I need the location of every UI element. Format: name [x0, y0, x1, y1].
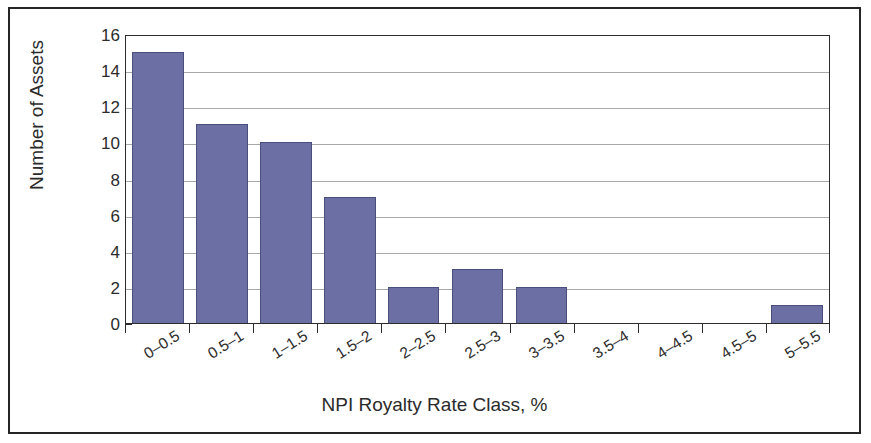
y-axis-tick-label: 0 [86, 316, 120, 333]
x-axis-tick-label: 2–2.5 [397, 327, 439, 363]
bar-slot [701, 36, 765, 323]
bar-slot [190, 36, 254, 323]
bar-slot [573, 36, 637, 323]
x-label-slot: 3.5–4 [574, 333, 638, 389]
y-axis-tick-label: 16 [86, 27, 120, 44]
x-label-slot: 3–3.5 [510, 333, 574, 389]
x-label-slot: 0.5–1 [189, 333, 253, 389]
y-axis-tick-label: 2 [86, 279, 120, 296]
x-axis-tick-label: 1–1.5 [269, 327, 311, 363]
x-axis-tick-label: 3–3.5 [525, 327, 567, 363]
y-axis-tick-label: 10 [86, 135, 120, 152]
bar [452, 269, 504, 323]
x-axis-tick-label: 5–5.5 [782, 327, 824, 363]
x-label-slot: 0–0.5 [125, 333, 189, 389]
y-axis-tick-label: 4 [86, 243, 120, 260]
x-axis-tick-mark [381, 324, 382, 333]
y-axis-tick-label: 8 [86, 171, 120, 188]
bar-slot [637, 36, 701, 323]
y-axis-title: Number of Assets [26, 5, 48, 225]
x-axis-tick-mark [766, 324, 767, 333]
bar-slot [509, 36, 573, 323]
x-axis-tick-mark [253, 324, 254, 333]
bar-slot [382, 36, 446, 323]
bar [260, 142, 312, 323]
x-axis-tick-mark [189, 324, 190, 333]
x-label-slot: 4.5–5 [702, 333, 766, 389]
x-axis-tick-labels: 0–0.50.5–11–1.51.5–22–2.52.5–33–3.53.5–4… [125, 333, 830, 389]
x-axis-tick-label: 4–4.5 [653, 327, 695, 363]
x-axis-tick-mark [317, 324, 318, 333]
bar-slot [254, 36, 318, 323]
y-axis-tick-label: 12 [86, 99, 120, 116]
x-axis-tick-label: 1.5–2 [333, 327, 375, 363]
x-axis-tick-mark [445, 324, 446, 333]
x-axis-tick-label: 2.5–3 [461, 327, 503, 363]
x-axis-tick-mark [702, 324, 703, 333]
y-axis-tick-label: 6 [86, 207, 120, 224]
x-axis-tick-label: 0.5–1 [205, 327, 247, 363]
bar [324, 197, 376, 323]
y-axis-tick-label: 14 [86, 63, 120, 80]
bar [771, 305, 823, 323]
bar [516, 287, 568, 323]
bar [132, 52, 184, 323]
x-label-slot: 5–5.5 [766, 333, 830, 389]
x-axis-tick-mark [125, 324, 126, 333]
x-axis-title: NPI Royalty Rate Class, % [10, 394, 859, 416]
x-axis-tick-mark [510, 324, 511, 333]
x-label-slot: 2–2.5 [381, 333, 445, 389]
x-label-slot: 1–1.5 [253, 333, 317, 389]
bar-slot [318, 36, 382, 323]
bar [196, 124, 248, 323]
y-axis-tick-labels: 0246810121416 [78, 35, 120, 324]
x-label-slot: 4–4.5 [638, 333, 702, 389]
bars-container [126, 36, 829, 323]
x-label-slot: 1.5–2 [317, 333, 381, 389]
bar-slot [126, 36, 190, 323]
bar [388, 287, 440, 323]
x-label-slot: 2.5–3 [445, 333, 509, 389]
x-axis-tick-label: 4.5–5 [717, 327, 759, 363]
x-axis-tick-mark [829, 324, 830, 333]
x-axis-tick-mark [638, 324, 639, 333]
x-axis-tick-mark [574, 324, 575, 333]
x-axis-tick-label: 0–0.5 [141, 327, 183, 363]
x-axis-tick-label: 3.5–4 [589, 327, 631, 363]
plot-area [125, 35, 830, 324]
bar-slot [446, 36, 510, 323]
figure-frame: Number of Assets 0246810121416 0–0.50.5–… [8, 7, 861, 434]
bar-slot [765, 36, 829, 323]
